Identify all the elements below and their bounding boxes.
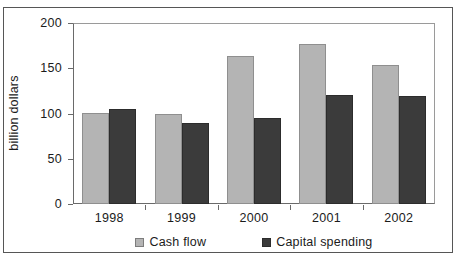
legend-item-capital-spending: Capital spending bbox=[262, 235, 372, 249]
x-tick-label: 2001 bbox=[312, 211, 341, 225]
bar-capital-spending-2002 bbox=[399, 96, 426, 204]
x-tick-label: 1999 bbox=[167, 211, 196, 225]
chart-figure: billion dollars 050100150200 19981999200… bbox=[0, 0, 459, 257]
bar-cash-flow-2000 bbox=[227, 56, 254, 204]
x-tick-label: 2000 bbox=[239, 211, 268, 225]
bar-cash-flow-1999 bbox=[155, 114, 182, 205]
legend-swatch-icon bbox=[135, 238, 144, 247]
legend-swatch-icon bbox=[262, 238, 271, 247]
y-tick-label: 150 bbox=[28, 61, 62, 75]
y-tick-label: 200 bbox=[28, 16, 62, 30]
chart-legend: Cash flowCapital spending bbox=[73, 234, 435, 250]
y-tick-label: 100 bbox=[28, 107, 62, 121]
bar-capital-spending-1999 bbox=[182, 123, 209, 204]
y-tick-label: 50 bbox=[28, 152, 62, 166]
legend-label: Capital spending bbox=[276, 235, 372, 249]
y-axis-label: billion dollars bbox=[7, 75, 21, 150]
bar-cash-flow-2002 bbox=[372, 65, 399, 204]
x-tick-mark bbox=[290, 205, 291, 210]
x-tick-label: 2002 bbox=[384, 211, 413, 225]
x-tick-mark bbox=[145, 205, 146, 210]
cropped-caption-text bbox=[95, 0, 365, 3]
bar-cash-flow-1998 bbox=[82, 113, 109, 204]
y-tick-mark bbox=[68, 204, 73, 205]
y-tick-label: 0 bbox=[28, 197, 62, 211]
x-tick-mark bbox=[218, 205, 219, 210]
bar-capital-spending-2001 bbox=[326, 95, 353, 204]
legend-item-cash-flow: Cash flow bbox=[135, 235, 206, 249]
bar-capital-spending-2000 bbox=[254, 118, 281, 204]
x-tick-mark bbox=[363, 205, 364, 210]
x-tick-label: 1998 bbox=[95, 211, 124, 225]
bar-capital-spending-1998 bbox=[109, 109, 136, 204]
legend-label: Cash flow bbox=[149, 235, 206, 249]
bar-cash-flow-2001 bbox=[299, 44, 326, 204]
